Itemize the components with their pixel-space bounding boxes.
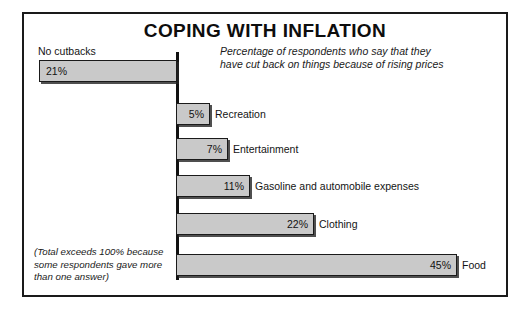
bar-gasoline-and-automobile-expenses: 11% — [176, 175, 250, 197]
bar-value-clothing: 22% — [287, 219, 308, 230]
bar-value-gasoline-and-automobile-expenses: 11% — [224, 181, 244, 192]
bar-clothing: 22% — [176, 213, 314, 235]
bar-entertainment: 7% — [176, 138, 228, 160]
bar-value-recreation: 5% — [189, 109, 204, 120]
bar-label-recreation: Recreation — [215, 109, 266, 120]
chart-frame: COPING WITH INFLATION Percentage of resp… — [22, 12, 508, 297]
axis-baseline — [176, 52, 179, 280]
bar-label-gasoline-and-automobile-expenses: Gasoline and automobile expenses — [255, 181, 419, 192]
bar-label-entertainment: Entertainment — [233, 144, 298, 155]
bar-food: 45% — [176, 254, 457, 276]
bar-value-food: 45% — [430, 260, 451, 271]
bar-recreation: 5% — [176, 103, 210, 125]
plot-area: No cutbacks 21% 5% Recreation 7% Enterta… — [24, 14, 506, 295]
bar-no-cutbacks: 21% — [39, 60, 177, 82]
bar-value-no-cutbacks: 21% — [46, 66, 67, 77]
bar-label-food: Food — [462, 260, 486, 271]
bar-value-entertainment: 7% — [207, 144, 222, 155]
bar-label-no-cutbacks: No cutbacks — [38, 46, 96, 57]
bar-label-clothing: Clothing — [319, 219, 358, 230]
